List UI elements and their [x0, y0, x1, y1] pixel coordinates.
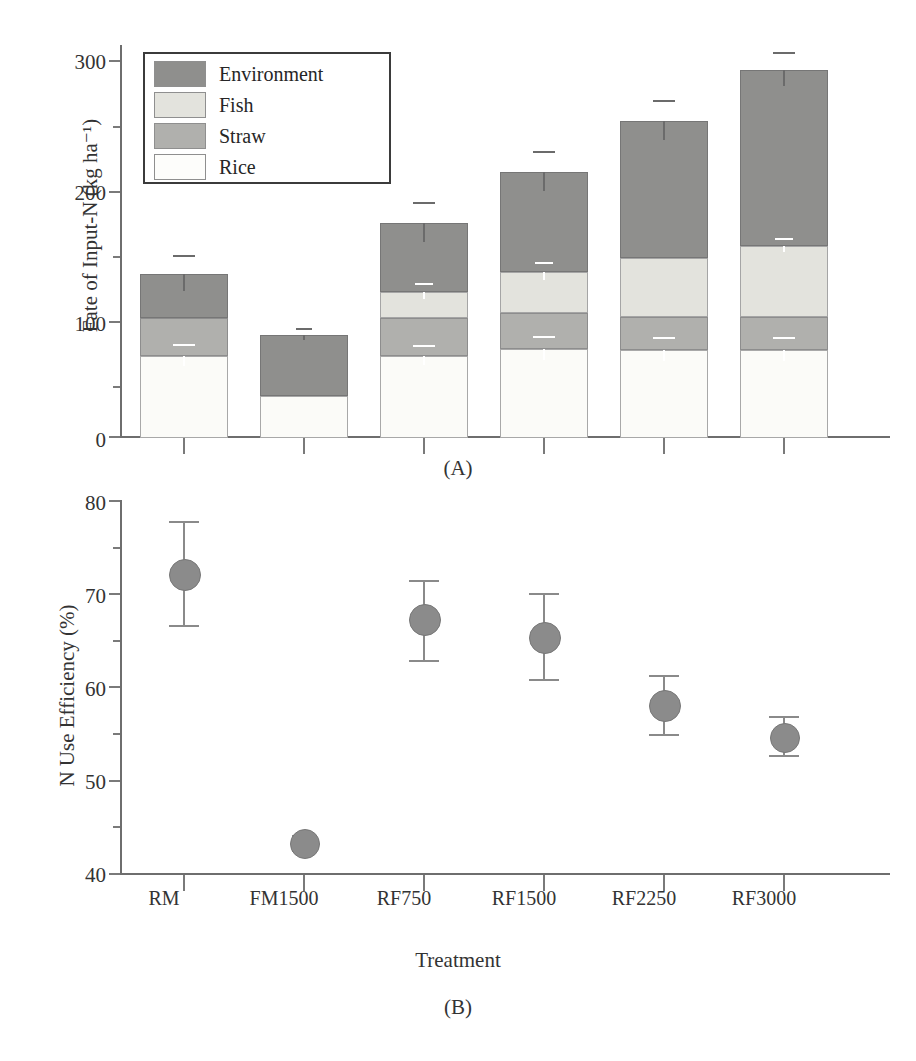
bar-segment-rice	[740, 350, 828, 438]
panel-b-ytick-50: 50	[46, 772, 106, 793]
legend-swatch-environment	[154, 61, 206, 87]
panel-a-ytick-minor-150	[113, 256, 120, 258]
bar-segment-straw	[620, 317, 708, 350]
panel-a-ytick-0: 0	[46, 430, 106, 451]
panel-b-xtick-label-fm1500: FM1500	[224, 888, 344, 908]
panel-b-xtick-label-rm: RM	[104, 888, 224, 908]
panel-a-ytick-mark-300	[109, 60, 120, 62]
legend: Environment Fish Straw Rice	[143, 52, 391, 184]
bar-rf2250[interactable]	[620, 47, 708, 438]
data-point-rf2250[interactable]	[649, 690, 681, 722]
panel-a: Fate of Input-N (kg ha⁻¹) 300 200 100 0	[0, 0, 916, 470]
panel-b-ytick-mark-40	[109, 873, 120, 875]
panel-b-xtick-label-rf3000: RF3000	[704, 888, 824, 908]
bar-segment-environment	[740, 70, 828, 246]
panel-b-ytick-minor-65	[113, 640, 120, 642]
panel-b-x-axis-spine	[120, 873, 890, 875]
panel-b-ytick-minor-75	[113, 547, 120, 549]
panel-b-label: (B)	[0, 997, 916, 1018]
bar-segment-straw	[740, 317, 828, 350]
data-point-rm[interactable]	[169, 559, 201, 591]
panel-a-xtick-mark-rm	[183, 438, 185, 454]
panel-a-ytick-200: 200	[46, 183, 106, 204]
bar-segment-fish	[740, 246, 828, 317]
bar-segment-rice	[260, 396, 348, 438]
panel-b-ytick-80: 80	[46, 493, 106, 514]
panel-b-plot-area	[120, 500, 890, 875]
panel-a-xtick-mark-rf1500	[543, 438, 545, 454]
panel-b-ytick-mark-80	[109, 500, 120, 502]
panel-b-xtick-label-rf2250: RF2250	[584, 888, 704, 908]
panel-a-ytick-mark-0	[109, 436, 120, 438]
panel-b-ytick-70: 70	[46, 586, 106, 607]
panel-b-ytick-mark-60	[109, 686, 120, 688]
bar-segment-straw	[500, 313, 588, 349]
panel-b-ytick-60: 60	[46, 679, 106, 700]
bar-rf1500[interactable]	[500, 47, 588, 438]
bar-segment-straw	[380, 318, 468, 356]
legend-entry-environment[interactable]: Environment	[154, 60, 323, 88]
data-point-fm1500[interactable]	[290, 829, 320, 859]
legend-label-rice: Rice	[219, 157, 256, 177]
legend-swatch-straw	[154, 123, 206, 149]
panel-b-ytick-40: 40	[46, 865, 106, 886]
panel-b-ytick-mark-70	[109, 593, 120, 595]
legend-entry-straw[interactable]: Straw	[154, 122, 266, 150]
legend-entry-rice[interactable]: Rice	[154, 153, 256, 181]
bar-segment-fish	[620, 258, 708, 317]
panel-a-xtick-mark-rf2250	[663, 438, 665, 454]
panel-a-ytick-minor-250	[113, 126, 120, 128]
panel-a-xtick-mark-rf3000	[783, 438, 785, 454]
panel-a-ytick-300: 300	[46, 52, 106, 73]
data-point-rf1500[interactable]	[529, 622, 561, 654]
panel-b-ytick-minor-55	[113, 733, 120, 735]
legend-label-environment: Environment	[219, 64, 323, 84]
bar-segment-straw	[140, 318, 228, 356]
bar-segment-rice	[620, 350, 708, 438]
bar-segment-rice	[380, 356, 468, 438]
legend-label-straw: Straw	[219, 126, 266, 146]
bar-rf3000[interactable]	[740, 47, 828, 438]
panel-a-ytick-minor-50	[113, 386, 120, 388]
legend-label-fish: Fish	[219, 95, 253, 115]
data-point-rf750[interactable]	[409, 604, 441, 636]
panel-b-ytick-minor-45	[113, 826, 120, 828]
panel-a-ytick-100: 100	[46, 314, 106, 335]
bar-segment-environment	[260, 335, 348, 396]
panel-b: N Use Efficiency (%) 80 70 60 50 40	[0, 470, 916, 1061]
legend-entry-fish[interactable]: Fish	[154, 91, 253, 119]
panel-a-ytick-mark-100	[109, 321, 120, 323]
bar-rf750[interactable]	[380, 47, 468, 438]
panel-a-xtick-mark-rf750	[423, 438, 425, 454]
panel-b-x-axis-title: Treatment	[0, 950, 916, 971]
bar-segment-rice	[140, 356, 228, 438]
data-point-rf3000[interactable]	[770, 723, 800, 753]
panel-b-ytick-mark-50	[109, 780, 120, 782]
legend-swatch-fish	[154, 92, 206, 118]
panel-a-y-axis-spine	[120, 45, 122, 438]
panel-a-xtick-mark-fm1500	[303, 438, 305, 454]
legend-swatch-rice	[154, 154, 206, 180]
bar-segment-environment	[620, 121, 708, 258]
panel-b-xtick-label-rf1500: RF1500	[464, 888, 584, 908]
panel-b-y-axis-spine	[120, 500, 122, 875]
bar-segment-rice	[500, 349, 588, 438]
figure-root: Fate of Input-N (kg ha⁻¹) 300 200 100 0	[0, 0, 916, 1061]
panel-a-ytick-mark-200	[109, 191, 120, 193]
panel-b-xtick-label-rf750: RF750	[344, 888, 464, 908]
